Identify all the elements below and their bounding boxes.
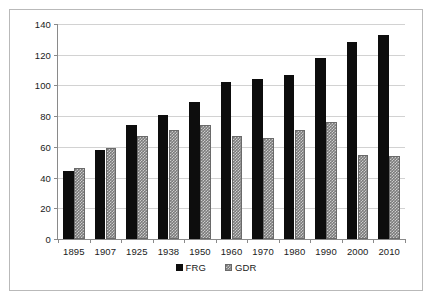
x-tick-mark (58, 239, 59, 243)
bar-gdr-1925 (137, 136, 148, 239)
bar-frg-1970 (252, 79, 263, 239)
bar-group (221, 24, 243, 239)
chart-frame: 020406080100120140 189519071925193819501… (9, 9, 423, 291)
x-axis-tick-label: 2000 (347, 246, 369, 257)
y-tick-mark (54, 116, 58, 117)
x-axis-tick-label: 1990 (315, 246, 337, 257)
bar-frg-2000 (347, 42, 358, 239)
x-tick-mark (121, 239, 122, 243)
x-axis-tick-label: 1950 (189, 246, 211, 257)
x-axis-tick-label: 1925 (126, 246, 148, 257)
x-tick-mark (184, 239, 185, 243)
y-axis-tick-label: 100 (35, 80, 51, 91)
chart-plot-wrapper: 020406080100120140 189519071925193819501… (10, 10, 422, 290)
y-axis-tick-label: 80 (40, 111, 51, 122)
bar-frg-1960 (221, 82, 232, 239)
bar-frg-1895 (63, 171, 74, 239)
x-tick-mark (405, 239, 406, 243)
bar-gdr-1970 (263, 138, 274, 239)
bar-group (315, 24, 337, 239)
bar-gdr-1950 (200, 125, 211, 239)
bar-frg-1925 (126, 125, 137, 239)
plot-area: 020406080100120140 189519071925193819501… (57, 24, 405, 240)
legend-item-gdr[interactable]: GDR (225, 262, 256, 273)
bar-group (63, 24, 85, 239)
bar-gdr-1907 (106, 148, 117, 239)
x-axis-tick-label: 1980 (284, 246, 306, 257)
chart-legend: FRGGDR (10, 262, 422, 273)
x-axis-tick-label: 1907 (95, 246, 117, 257)
bar-gdr-1895 (74, 168, 85, 239)
y-tick-mark (54, 55, 58, 56)
bar-group (189, 24, 211, 239)
bar-group (252, 24, 274, 239)
legend-label: GDR (235, 262, 256, 273)
legend-swatch-icon (225, 264, 232, 271)
x-tick-mark (247, 239, 248, 243)
x-axis-tick-label: 2010 (378, 246, 400, 257)
y-axis-tick-label: 20 (40, 203, 51, 214)
x-axis-tick-label: 1970 (252, 246, 274, 257)
bar-gdr-1938 (169, 130, 180, 239)
bar-group (126, 24, 148, 239)
x-tick-mark (216, 239, 217, 243)
y-tick-mark (54, 208, 58, 209)
bar-group (284, 24, 306, 239)
bar-frg-1938 (158, 115, 169, 239)
bar-gdr-2010 (389, 156, 400, 239)
y-tick-mark (54, 147, 58, 148)
bar-gdr-1980 (295, 130, 306, 239)
x-axis-tick-label: 1938 (158, 246, 180, 257)
y-axis-tick-label: 140 (35, 19, 51, 30)
x-tick-mark (279, 239, 280, 243)
x-tick-mark (373, 239, 374, 243)
y-tick-mark (54, 85, 58, 86)
bar-frg-1907 (95, 150, 106, 239)
legend-swatch-icon (176, 264, 183, 271)
bar-frg-1980 (284, 75, 295, 239)
bar-gdr-2000 (358, 155, 369, 239)
bar-group (347, 24, 369, 239)
bar-group (158, 24, 180, 239)
x-tick-mark (342, 239, 343, 243)
y-tick-mark (54, 178, 58, 179)
x-tick-mark (90, 239, 91, 243)
bar-frg-1950 (189, 102, 200, 239)
x-axis-tick-label: 1960 (221, 246, 243, 257)
x-tick-mark (153, 239, 154, 243)
bar-gdr-1990 (326, 122, 337, 239)
bar-group (95, 24, 117, 239)
x-axis-tick-label: 1895 (63, 246, 85, 257)
x-tick-mark (310, 239, 311, 243)
bar-frg-2010 (378, 35, 389, 239)
y-axis-tick-label: 40 (40, 172, 51, 183)
bar-frg-1990 (315, 58, 326, 239)
y-axis-tick-label: 0 (46, 234, 51, 245)
y-tick-mark (54, 24, 58, 25)
bar-gdr-1960 (232, 136, 243, 239)
legend-label: FRG (186, 262, 206, 273)
y-axis-tick-label: 60 (40, 141, 51, 152)
y-axis-tick-label: 120 (35, 49, 51, 60)
legend-item-frg[interactable]: FRG (176, 262, 206, 273)
bar-group (378, 24, 400, 239)
